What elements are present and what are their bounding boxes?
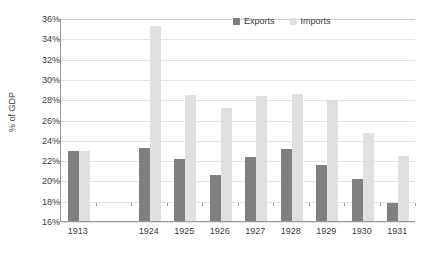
chart-legend: ExportsImports <box>233 16 331 26</box>
x-tick-mark <box>60 203 61 206</box>
legend-item-imports[interactable]: Imports <box>290 16 331 26</box>
bar-imports-1925 <box>185 95 196 221</box>
bar-group <box>387 19 409 221</box>
x-tick-mark <box>344 203 345 206</box>
x-tick-mark <box>309 203 310 206</box>
x-tick-label: 1913 <box>55 226 101 236</box>
y-tick-label: 32% <box>26 55 60 65</box>
x-tick-mark <box>273 203 274 206</box>
x-tick-mark <box>380 203 381 206</box>
bar-group <box>139 19 161 221</box>
x-tick-mark <box>238 203 239 206</box>
bar-exports-1928 <box>281 149 292 221</box>
bar-imports-1913 <box>79 151 90 221</box>
legend-label: Exports <box>244 16 275 26</box>
bar-exports-1931 <box>387 203 398 221</box>
bar-imports-1926 <box>221 108 232 221</box>
bar-group <box>281 19 303 221</box>
y-tick-mark <box>57 222 60 223</box>
x-tick-label: 1931 <box>374 226 420 236</box>
x-tick-mark <box>202 203 203 206</box>
bar-exports-1925 <box>174 159 185 221</box>
y-axis-title: % of GDP <box>7 67 17 157</box>
y-tick-label: 24% <box>26 136 60 146</box>
bar-group <box>245 19 267 221</box>
bar-exports-1927 <box>245 157 256 221</box>
bar-imports-1930 <box>363 133 374 221</box>
y-tick-label: 26% <box>26 116 60 126</box>
bar-imports-1928 <box>292 94 303 221</box>
bar-imports-1924 <box>150 26 161 221</box>
bar-exports-1913 <box>68 151 79 221</box>
y-tick-label: 20% <box>26 176 60 186</box>
legend-label: Imports <box>301 16 331 26</box>
bar-exports-1929 <box>316 165 327 221</box>
y-tick-label: 22% <box>26 156 60 166</box>
bar-exports-1930 <box>352 179 363 221</box>
plot-area <box>60 19 415 222</box>
bar-imports-1931 <box>398 156 409 221</box>
y-tick-label: 36% <box>26 14 60 24</box>
bar-exports-1926 <box>210 175 221 221</box>
y-tick-label: 30% <box>26 75 60 85</box>
x-tick-mark <box>131 203 132 206</box>
x-tick-mark <box>167 203 168 206</box>
bar-group <box>210 19 232 221</box>
bar-group <box>316 19 338 221</box>
y-tick-label: 34% <box>26 34 60 44</box>
y-tick-label: 18% <box>26 197 60 207</box>
y-tick-label: 28% <box>26 95 60 105</box>
bar-group <box>68 19 90 221</box>
bar-imports-1929 <box>327 100 338 221</box>
bar-imports-1927 <box>256 96 267 221</box>
legend-swatch-icon <box>233 18 240 25</box>
x-tick-mark <box>415 203 416 206</box>
bar-group <box>174 19 196 221</box>
x-tick-mark <box>96 203 97 206</box>
legend-swatch-icon <box>290 18 297 25</box>
gridline <box>61 222 415 223</box>
bar-group <box>352 19 374 221</box>
bar-chart: % of GDP 16%18%20%22%24%26%28%30%32%34%3… <box>0 0 423 259</box>
legend-item-exports[interactable]: Exports <box>233 16 275 26</box>
bar-exports-1924 <box>139 148 150 221</box>
